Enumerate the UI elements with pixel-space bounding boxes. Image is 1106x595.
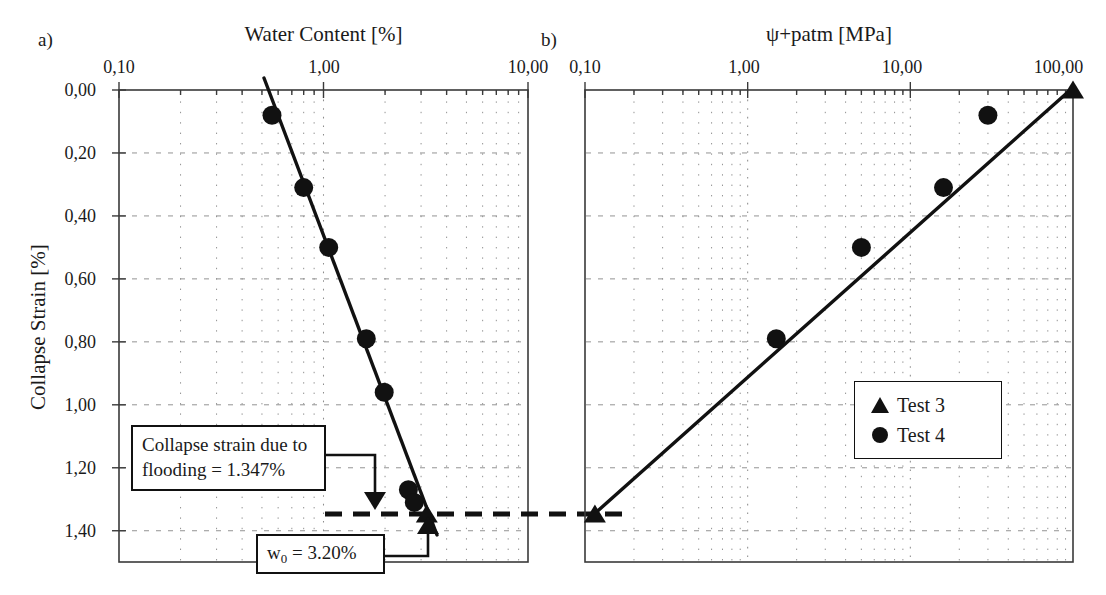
- legend-item-test-4: Test 4: [867, 420, 985, 450]
- legend-item-test-3: Test 3: [867, 390, 985, 420]
- w0-annotation-leader: [382, 534, 428, 556]
- legend-box: Test 3 Test 4: [854, 381, 1002, 459]
- panel-b-gridlines: [634, 91, 1066, 561]
- circle-marker-icon: [872, 427, 888, 443]
- panel-b-frame: [585, 90, 1073, 562]
- collapse-strain-annotation-line1: Collapse strain due to: [142, 433, 315, 458]
- legend-label-test-3: Test 3: [897, 394, 945, 417]
- w0-annotation-suffix: = 3.20%: [287, 542, 356, 563]
- collapse-strain-annotation-line2: flooding = 1.347%: [142, 458, 315, 483]
- collapse-annotation-leader: [322, 455, 375, 492]
- figure-root: a) Water Content [%] 0,10 1,00 10,00 Col…: [0, 0, 1106, 595]
- legend-label-test-4: Test 4: [897, 424, 945, 447]
- triangle-marker-icon: [871, 397, 889, 413]
- collapse-strain-annotation-box: Collapse strain due to flooding = 1.347%: [131, 425, 326, 491]
- w0-annotation-prefix: w: [267, 542, 281, 563]
- panel-b-horizontal-gridlines: [586, 153, 1072, 531]
- plot-canvas: [0, 0, 1106, 595]
- w0-annotation-box: w0 = 3.20%: [256, 534, 385, 574]
- w0-annotation-text: w0 = 3.20%: [267, 542, 356, 563]
- collapse-annotation-arrowhead: [364, 492, 386, 510]
